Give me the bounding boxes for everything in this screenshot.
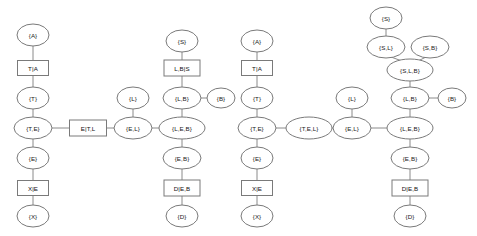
clique-node-R2_B[interactable]: {B} — [438, 88, 466, 108]
node-label-R2_B: {B} — [448, 95, 457, 102]
node-label-R2_XE: X|E — [252, 185, 262, 192]
node-label-L1_TA: T|A — [28, 65, 39, 72]
clique-node-R2_E[interactable]: {E} — [241, 147, 273, 169]
clique-node-L1_B[interactable]: {B} — [207, 88, 235, 108]
clique-node-R2_TE[interactable]: {T,E} — [238, 117, 276, 139]
node-label-L1_LBS: L,B|S — [174, 65, 190, 72]
node-label-R2_L: {L} — [348, 95, 356, 102]
node-label-L1_S: {S} — [178, 38, 187, 45]
clique-node-R2_SB[interactable]: {S,B} — [411, 36, 449, 58]
node-label-R2_A: {A} — [253, 38, 262, 45]
node-label-L1_TE: {T,E} — [26, 125, 40, 132]
separator-node-L1_LBS[interactable]: L,B|S — [164, 60, 200, 76]
node-label-L1_L: {L} — [129, 95, 137, 102]
clique-node-L1_X[interactable]: {X} — [17, 205, 49, 227]
separator-node-R2_XE[interactable]: X|E — [242, 181, 273, 196]
node-label-L1_D: {D} — [178, 213, 187, 220]
node-label-R2_X: {X} — [253, 213, 262, 220]
clique-node-L1_LEB[interactable]: {L,E,B} — [159, 117, 205, 139]
node-label-R2_T: {T} — [253, 95, 261, 102]
clique-node-R2_EL[interactable]: {E,L} — [333, 117, 371, 139]
clique-node-R2_L[interactable]: {L} — [336, 87, 368, 109]
clique-node-L1_T[interactable]: {T} — [17, 87, 49, 109]
clique-node-R2_LB[interactable]: {L,B} — [391, 87, 429, 109]
node-label-L1_EL: {E,L} — [126, 125, 140, 132]
node-label-R2_LEB: {L,E,B} — [400, 125, 420, 132]
separator-node-L1_ETL[interactable]: E|T,L — [70, 120, 107, 136]
node-label-R2_SB: {S,B} — [423, 44, 438, 51]
clique-node-R2_A[interactable]: {A} — [241, 30, 273, 52]
node-label-R2_LB: {L,B} — [403, 95, 417, 102]
node-label-R2_EB: {E,B} — [403, 155, 418, 162]
node-label-L1_A: {A} — [29, 32, 38, 39]
clique-node-R2_SL[interactable]: {S,L} — [367, 36, 405, 58]
node-label-L1_EB: {E,B} — [175, 155, 190, 162]
node-label-L1_X: {X} — [29, 213, 38, 220]
clique-node-L1_S[interactable]: {S} — [166, 30, 198, 52]
node-label-R2_TA: T|A — [252, 65, 263, 72]
junction-tree-diagram: {A}T|A{T}{T,E}{E}X|E{X}E|T,L{L}{E,L}{S}L… — [0, 0, 477, 236]
clique-node-L1_LB[interactable]: {L,B} — [163, 87, 201, 109]
node-label-L1_T: {T} — [29, 95, 37, 102]
clique-node-R2_TEL[interactable]: {T,E,L} — [286, 117, 332, 139]
clique-node-R2_D[interactable]: {D} — [394, 205, 426, 227]
clique-node-L1_EB[interactable]: {E,B} — [163, 147, 201, 169]
separator-node-L1_XE[interactable]: X|E — [18, 181, 49, 196]
clique-node-R2_X[interactable]: {X} — [241, 205, 273, 227]
separator-node-L1_DEB[interactable]: D|E,B — [164, 180, 200, 196]
clique-node-R2_SLB[interactable]: {S,L,B} — [387, 59, 433, 81]
node-label-L1_ETL: E|T,L — [81, 125, 96, 132]
node-label-R2_DEB: D|E,B — [402, 185, 419, 192]
node-layer: {A}T|A{T}{T,E}{E}X|E{X}E|T,L{L}{E,L}{S}L… — [14, 7, 466, 227]
clique-node-R2_LEB[interactable]: {L,E,B} — [387, 117, 433, 139]
node-label-L1_LB: {L,B} — [175, 95, 189, 102]
node-label-L1_LEB: {L,E,B} — [172, 125, 192, 132]
clique-node-L1_A[interactable]: {A} — [17, 24, 49, 46]
node-label-R2_S: {S} — [382, 15, 391, 22]
separator-node-R2_TA[interactable]: T|A — [242, 61, 273, 76]
node-label-L1_E: {E} — [29, 155, 38, 162]
clique-node-R2_S[interactable]: {S} — [370, 7, 402, 29]
clique-node-L1_E[interactable]: {E} — [17, 147, 49, 169]
node-label-L1_B: {B} — [217, 95, 226, 102]
separator-node-R2_DEB[interactable]: D|E,B — [392, 180, 428, 196]
node-label-R2_EL: {E,L} — [345, 125, 359, 132]
node-label-R2_D: {D} — [406, 213, 415, 220]
node-label-R2_SL: {S,L} — [379, 44, 393, 51]
node-label-R2_TEL: {T,E,L} — [300, 125, 319, 132]
node-label-L1_XE: X|E — [28, 185, 38, 192]
clique-node-L1_L[interactable]: {L} — [117, 87, 149, 109]
node-label-R2_TE: {T,E} — [250, 125, 264, 132]
clique-node-L1_TE[interactable]: {T,E} — [14, 117, 52, 139]
node-label-R2_E: {E} — [253, 155, 262, 162]
separator-node-L1_TA[interactable]: T|A — [18, 61, 49, 76]
clique-node-L1_D[interactable]: {D} — [166, 205, 198, 227]
node-label-R2_SLB: {S,L,B} — [400, 67, 420, 74]
clique-node-L1_EL[interactable]: {E,L} — [114, 117, 152, 139]
node-label-L1_DEB: D|E,B — [174, 185, 191, 192]
clique-node-R2_EB[interactable]: {E,B} — [391, 147, 429, 169]
clique-node-R2_T[interactable]: {T} — [241, 87, 273, 109]
diagram-canvas: {A}T|A{T}{T,E}{E}X|E{X}E|T,L{L}{E,L}{S}L… — [0, 0, 477, 236]
